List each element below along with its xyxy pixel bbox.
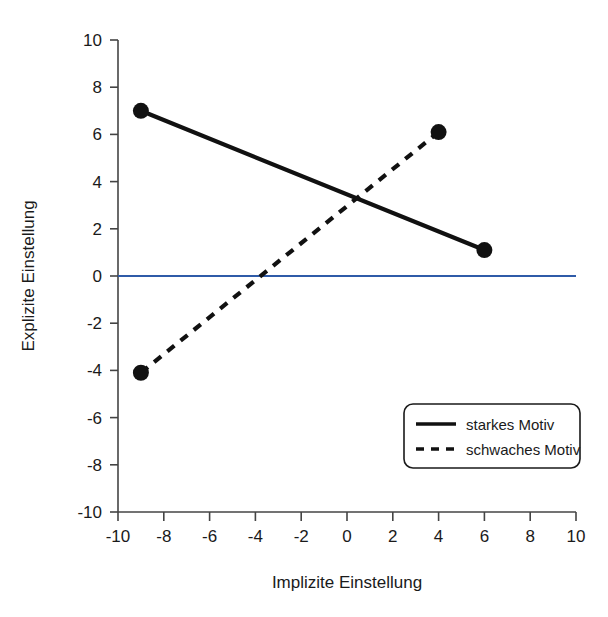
y-tick-label: -4 [87,361,102,380]
x-tick-label: 10 [567,527,586,546]
legend-label: starkes Motiv [466,416,555,433]
line-chart: 10 8 6 4 2 0 -2 -4 -6 -8 -10 -1 [0,0,608,617]
y-tick-label: -2 [87,314,102,333]
legend-box [404,404,580,468]
x-tick-label: -6 [202,527,217,546]
chart-background [0,0,608,617]
data-point-marker [476,242,492,258]
x-tick-label: -2 [294,527,309,546]
x-tick-label: 4 [434,527,443,546]
x-axis-title: Implizite Einstellung [272,573,422,592]
y-tick-label: 10 [83,31,102,50]
x-tick-label: 8 [525,527,534,546]
y-tick-label: -8 [87,456,102,475]
y-tick-label: -10 [77,503,102,522]
y-tick-label: -6 [87,409,102,428]
data-point-marker [133,103,149,119]
y-tick-label: 6 [93,125,102,144]
y-tick-label: 2 [93,220,102,239]
data-point-marker [431,124,447,140]
y-tick-label: 8 [93,78,102,97]
x-tick-label: -4 [248,527,263,546]
x-tick-label: 6 [480,527,489,546]
y-tick-label: 4 [93,173,102,192]
data-point-marker [133,365,149,381]
x-tick-label: -8 [156,527,171,546]
chart-figure: 10 8 6 4 2 0 -2 -4 -6 -8 -10 -1 [0,0,608,617]
x-tick-label: -10 [106,527,131,546]
legend-label: schwaches Motiv [466,441,581,458]
y-tick-label: 0 [93,267,102,286]
chart-legend[interactable]: starkes Motiv schwaches Motiv [404,404,581,468]
x-tick-label: 0 [342,527,351,546]
y-axis-title: Explizite Einstellung [19,200,38,351]
x-tick-label: 2 [388,527,397,546]
